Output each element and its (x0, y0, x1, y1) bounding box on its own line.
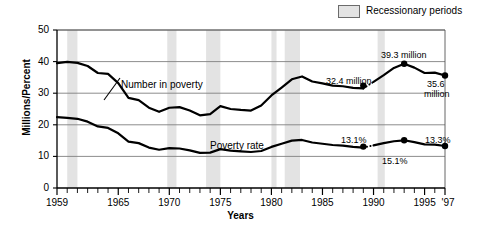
y-tick-label: 20 (25, 120, 49, 130)
value-annotation: million (424, 89, 450, 99)
x-tick-label: 1980 (256, 198, 286, 208)
data-point-marker (401, 61, 407, 67)
data-point-marker (401, 137, 407, 143)
x-tick-label: '97 (433, 198, 463, 208)
y-tick-label: 0 (25, 183, 49, 193)
x-tick-label: 1959 (42, 198, 72, 208)
series-inline-label: Poverty rate (210, 140, 264, 151)
recession-band (285, 30, 300, 188)
value-annotation: 13.3% (425, 135, 451, 145)
x-tick-label: 1970 (154, 198, 184, 208)
y-tick-label: 10 (25, 151, 49, 161)
value-annotation: 35.6 (427, 79, 445, 89)
data-point-marker (442, 72, 448, 78)
x-tick-label: 1985 (307, 198, 337, 208)
series-label-leader-line (104, 78, 120, 100)
y-tick-label: 40 (25, 57, 49, 67)
value-annotation: 15.1% (382, 156, 408, 166)
x-tick-label: 1975 (205, 198, 235, 208)
y-tick-label: 30 (25, 88, 49, 98)
value-annotation: 39.3 million (381, 50, 427, 60)
y-tick-label: 50 (25, 25, 49, 35)
series-inline-label: Number in poverty (121, 79, 203, 90)
x-tick-label: 1990 (359, 198, 389, 208)
value-annotation: 13.1% (341, 135, 367, 145)
recession-band (271, 30, 276, 188)
recession-band (67, 30, 77, 188)
value-annotation: 32.4 million (326, 76, 372, 86)
x-tick-label: 1965 (103, 198, 133, 208)
poverty-chart-figure: Recessionary periods Millions/Percent Ye… (0, 0, 481, 234)
